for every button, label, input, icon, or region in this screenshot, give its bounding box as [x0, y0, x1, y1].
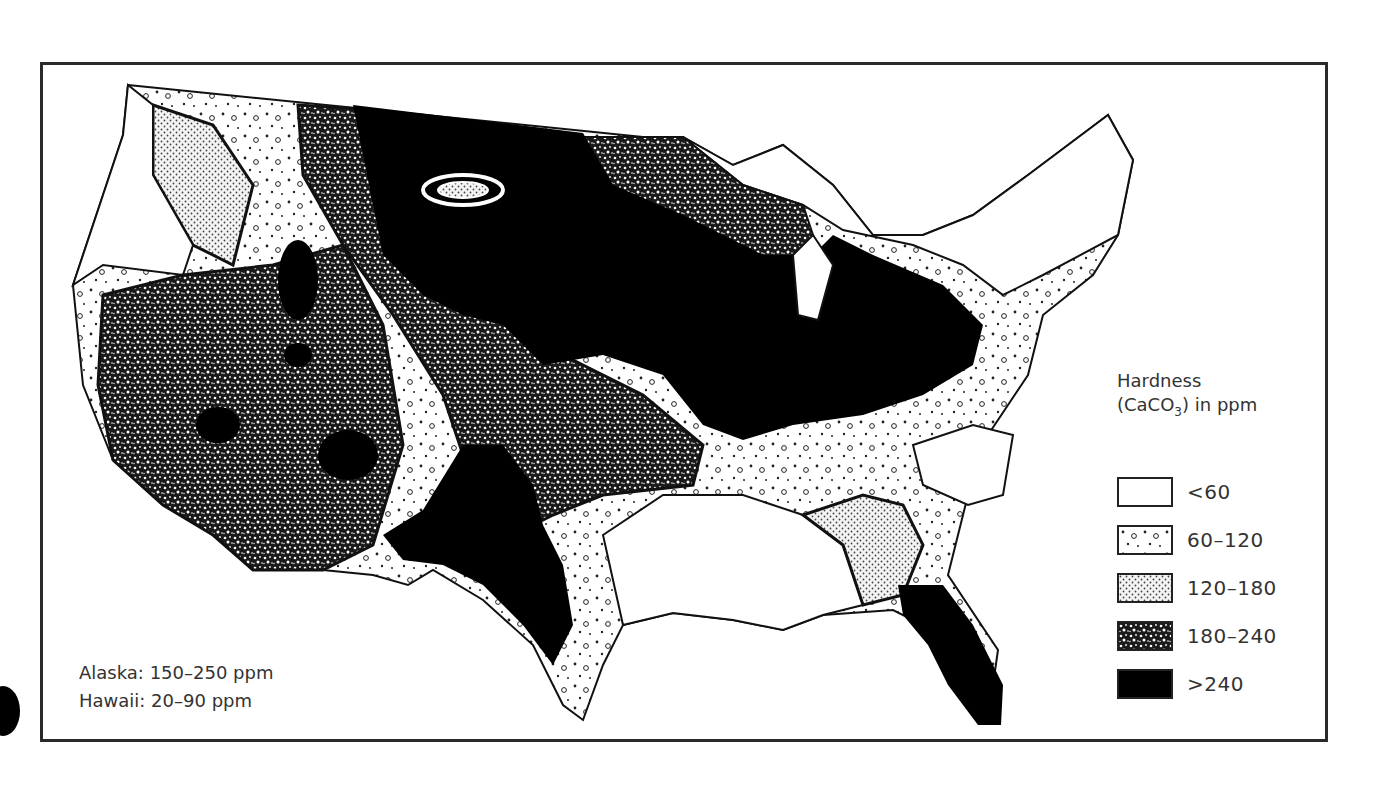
legend-title: Hardness (CaCO3) in ppm — [1117, 369, 1317, 424]
legend-item-180-240: 180–240 — [1117, 612, 1317, 660]
legend-item-gt240: >240 — [1117, 660, 1317, 708]
legend-item-120-180: 120–180 — [1117, 564, 1317, 612]
legend-title-line1: Hardness — [1117, 369, 1317, 393]
swatch-sparse-circles — [1117, 525, 1173, 555]
legend-label: 60–120 — [1187, 528, 1264, 552]
swatch-white — [1117, 477, 1173, 507]
bullet-marker — [0, 686, 20, 736]
legend-label: 120–180 — [1187, 576, 1277, 600]
legend-title-prefix: (CaCO — [1117, 394, 1174, 415]
legend-label: >240 — [1187, 672, 1244, 696]
swatch-solid-black — [1117, 669, 1173, 699]
legend-label: 180–240 — [1187, 624, 1277, 648]
legend-label: <60 — [1187, 480, 1231, 504]
map-frame: Hardness (CaCO3) in ppm <60 60–120 120–1… — [40, 62, 1328, 742]
hardness-legend: Hardness (CaCO3) in ppm <60 60–120 120–1… — [1117, 369, 1317, 708]
legend-title-subscript: 3 — [1174, 405, 1182, 419]
swatch-fine-dots — [1117, 573, 1173, 603]
state-notes: Alaska: 150–250 ppm Hawaii: 20–90 ppm — [79, 659, 273, 715]
legend-title-suffix: ) in ppm — [1182, 394, 1257, 415]
legend-item-60-120: 60–120 — [1117, 516, 1317, 564]
swatch-dense-speckle — [1117, 621, 1173, 651]
hawaii-note: Hawaii: 20–90 ppm — [79, 687, 273, 715]
legend-item-lt60: <60 — [1117, 468, 1317, 516]
alaska-note: Alaska: 150–250 ppm — [79, 659, 273, 687]
